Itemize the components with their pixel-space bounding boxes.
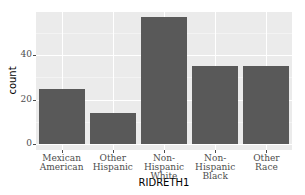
bar-mexican-american [39, 89, 85, 145]
y-tick-label: 20 [8, 94, 32, 104]
x-tick-label: OtherRace [236, 154, 296, 172]
y-tick [33, 100, 36, 101]
bar-non-hispanic-black [192, 66, 238, 144]
y-tick-label: 0 [8, 138, 32, 148]
x-tick-label-line: Race [236, 163, 296, 172]
plot-panel [36, 12, 292, 150]
bar-other-race [243, 66, 289, 144]
y-tick-label: 40 [8, 49, 32, 59]
bar-other-hispanic [90, 113, 136, 144]
bar-chart: count RIDRETH1 MexicanAmericanOtherHispa… [0, 0, 305, 195]
y-tick [33, 55, 36, 56]
bar-non-hispanic-white [141, 17, 187, 144]
x-tick-label-line: Black [185, 172, 245, 181]
y-tick [33, 144, 36, 145]
